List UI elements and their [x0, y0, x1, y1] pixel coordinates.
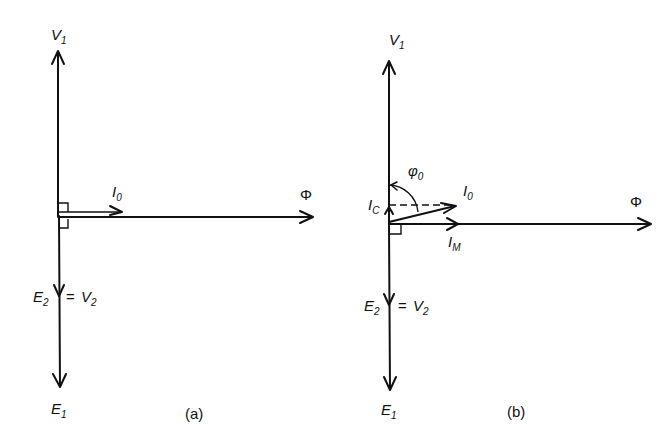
- label-phi0: φ0: [408, 162, 424, 182]
- label-flux: Φ: [300, 186, 312, 203]
- label-equals: =: [66, 288, 75, 305]
- label-e2: E2: [364, 297, 380, 317]
- label-v2: V2: [81, 288, 97, 308]
- caption-b: (b): [507, 403, 525, 420]
- label-i0: I0: [463, 182, 473, 202]
- i0-phasor: [389, 206, 455, 222]
- panel-a: V1 I0 Φ E2 = V2 E1 (a): [33, 26, 313, 422]
- label-equals: =: [398, 297, 407, 314]
- label-e1: E1: [51, 400, 67, 420]
- e1-phasor: [389, 224, 390, 389]
- label-v2: V2: [413, 297, 429, 317]
- label-e2: E2: [33, 288, 49, 308]
- caption-a: (a): [185, 405, 203, 422]
- right-angle-mark: [389, 224, 401, 234]
- label-flux: Φ: [630, 193, 642, 210]
- label-e1: E1: [381, 401, 397, 421]
- label-ic: IC: [368, 196, 380, 216]
- right-angle-mark-upper: [58, 203, 68, 212]
- label-im: IM: [448, 233, 461, 253]
- phi0-angle-arc: [389, 185, 418, 212]
- i0-arrowhead: [110, 206, 122, 215]
- e1-phasor: [59, 216, 60, 386]
- label-v1: V1: [389, 31, 405, 51]
- label-i0: I0: [112, 183, 122, 203]
- phasor-diagrams: V1 I0 Φ E2 = V2 E1 (a) V1: [0, 0, 670, 446]
- panel-b: V1 φ0 I0 IC IM Φ E2 = V2 E1 (b): [364, 31, 651, 421]
- label-v1: V1: [51, 26, 67, 46]
